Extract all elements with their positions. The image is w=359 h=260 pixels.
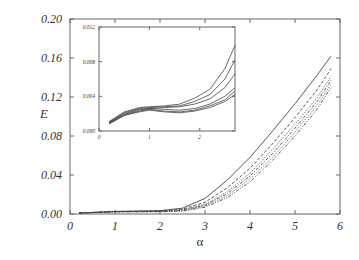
main-x-tick-label: 2 <box>157 219 163 233</box>
inset-x-tick-label: 1 <box>148 134 151 140</box>
inset-x-tick-label: 2 <box>198 134 201 140</box>
inset-y-tick-label: 0.004 <box>83 93 96 99</box>
main-y-tick-label: 0.20 <box>41 12 62 26</box>
chart-figure: 01234560.000.040.080.120.160.20 0120.000… <box>0 0 359 260</box>
main-x-tick-label: 0 <box>67 219 73 233</box>
main-y-tick-label: 0.04 <box>41 168 62 182</box>
main-x-tick-label: 6 <box>337 219 343 233</box>
main-x-tick-label: 1 <box>112 219 118 233</box>
inset-x-tick-label: 0 <box>98 134 101 140</box>
main-y-tick-label: 0.12 <box>41 90 62 104</box>
main-y-tick-label: 0.00 <box>41 207 62 221</box>
main-x-tick-label: 5 <box>292 219 298 233</box>
inset-plot-area: 0120.0000.0040.0080.012 <box>83 24 235 140</box>
inset-y-tick-label: 0.000 <box>83 128 96 134</box>
inset-y-tick-label: 0.012 <box>83 24 96 30</box>
inset-y-tick-label: 0.008 <box>83 59 96 65</box>
main-x-tick-label: 4 <box>247 219 253 233</box>
main-y-tick-label: 0.16 <box>41 51 62 65</box>
main-x-tick-label: 3 <box>201 219 208 233</box>
x-axis-label: α <box>197 234 204 249</box>
main-y-tick-label: 0.08 <box>41 129 62 143</box>
y-axis-label: E <box>39 106 48 121</box>
